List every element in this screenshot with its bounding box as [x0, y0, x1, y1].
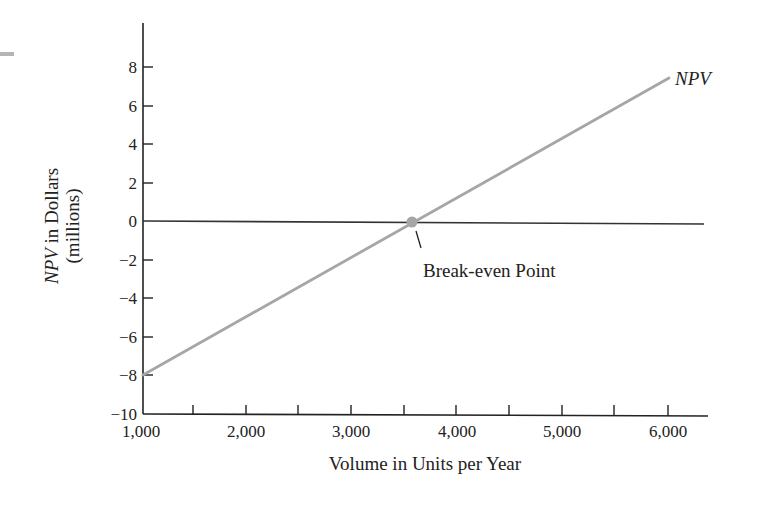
svg-text:2: 2 — [129, 174, 138, 193]
break-even-marker — [407, 217, 418, 228]
npv-series-label: NPV — [674, 68, 713, 89]
zero-line — [143, 221, 704, 224]
y-axis-title-npv: NPV — [41, 246, 62, 285]
svg-text:8: 8 — [129, 58, 138, 77]
svg-text:6: 6 — [129, 97, 138, 116]
decorative-bar — [0, 52, 14, 56]
svg-text:−4: −4 — [119, 289, 138, 308]
x-axis — [143, 414, 708, 416]
svg-text:−6: −6 — [119, 328, 137, 347]
svg-text:NPV in Dollars: NPV in Dollars — [41, 168, 62, 285]
y-axis-title-units: (millions) — [62, 189, 84, 264]
svg-text:1,000: 1,000 — [122, 422, 160, 441]
svg-text:0: 0 — [129, 212, 138, 231]
break-even-leader — [416, 231, 421, 248]
npv-chart: 8 6 4 2 0 −2 −4 −6 −8 −10 1,000 2,000 3,… — [0, 0, 769, 506]
x-axis-title: Volume in Units per Year — [329, 453, 522, 474]
x-tick-labels: 1,000 2,000 3,000 4,000 5,000 6,000 — [122, 422, 687, 441]
svg-text:3,000: 3,000 — [332, 422, 370, 441]
y-axis-title-rest: in Dollars — [41, 168, 62, 248]
svg-text:−8: −8 — [119, 366, 137, 385]
y-tick-labels: 8 6 4 2 0 −2 −4 −6 −8 −10 — [110, 58, 137, 424]
break-even-label: Break-even Point — [423, 260, 556, 281]
svg-text:4,000: 4,000 — [438, 422, 476, 441]
npv-line — [143, 78, 669, 375]
svg-text:−2: −2 — [119, 251, 137, 270]
svg-text:2,000: 2,000 — [227, 422, 265, 441]
y-axis-title: NPV in Dollars (millions) — [41, 168, 84, 285]
svg-text:4: 4 — [129, 135, 138, 154]
svg-text:5,000: 5,000 — [543, 422, 581, 441]
svg-text:6,000: 6,000 — [649, 422, 687, 441]
